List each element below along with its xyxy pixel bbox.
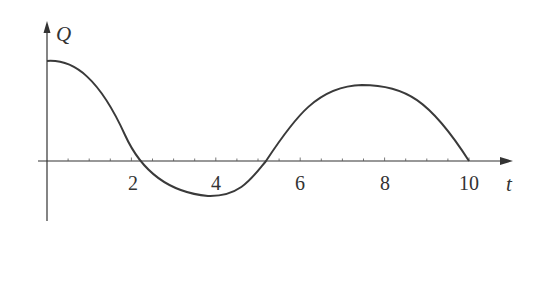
tick-label-6: 6 xyxy=(295,172,305,194)
x-axis: t 2 4 6 8 10 xyxy=(38,157,513,196)
tick-label-8: 8 xyxy=(380,172,390,194)
y-axis-arrow-icon xyxy=(44,21,51,33)
y-axis-label: Q xyxy=(56,22,71,46)
x-axis-label: t xyxy=(506,172,513,196)
chart: Q t 2 4 6 8 10 xyxy=(0,0,537,298)
tick-label-2: 2 xyxy=(128,172,138,194)
tick-label-10: 10 xyxy=(459,172,479,194)
y-axis: Q xyxy=(44,21,72,221)
x-axis-arrow-icon xyxy=(500,157,513,165)
tick-label-4: 4 xyxy=(211,172,221,194)
q-curve xyxy=(47,61,469,196)
